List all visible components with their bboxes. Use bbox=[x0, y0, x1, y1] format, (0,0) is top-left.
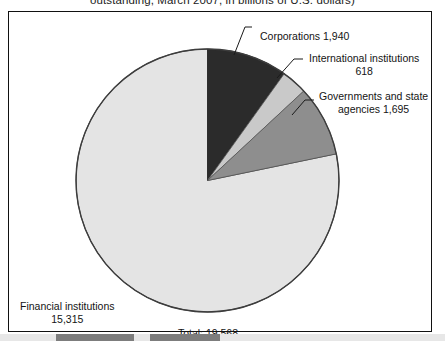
label-governments-name: Governments and state bbox=[319, 90, 428, 102]
label-international-institutions: International institutions 618 bbox=[309, 52, 419, 77]
label-governments-agencies: Governments and state agencies 1,695 bbox=[319, 90, 428, 115]
label-international-name: International institutions bbox=[309, 52, 419, 64]
pie-svg bbox=[75, 48, 340, 313]
label-governments-value: agencies 1,695 bbox=[319, 103, 428, 116]
label-financial-name: Financial institutions bbox=[20, 300, 115, 312]
chart-frame: Corporations 1,940 International institu… bbox=[8, 11, 432, 332]
label-corporations-text: Corporations 1,940 bbox=[260, 30, 349, 42]
pie-slices bbox=[76, 49, 339, 312]
chart-title: outstanding, March 2007, in billions of … bbox=[0, 0, 445, 10]
pie-chart bbox=[75, 48, 340, 313]
label-corporations: Corporations 1,940 bbox=[260, 30, 349, 43]
scan-blot-1 bbox=[56, 334, 134, 341]
label-international-value: 618 bbox=[309, 65, 419, 78]
label-financial-institutions: Financial institutions 15,315 bbox=[20, 300, 115, 325]
scan-artifact-strip bbox=[0, 334, 445, 341]
chart-screenshot: outstanding, March 2007, in billions of … bbox=[0, 0, 445, 341]
label-financial-value: 15,315 bbox=[20, 313, 115, 326]
scan-blot-2 bbox=[150, 334, 220, 341]
